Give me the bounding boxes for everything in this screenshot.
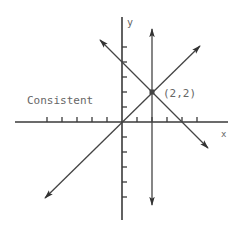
caption-label: Consistent [27,94,93,107]
y-axis-label: y [127,17,133,28]
x-axis-label: x [221,129,227,139]
intersection-point-marker [150,90,155,95]
intersection-label: (2,2) [163,87,196,100]
coordinate-graph: (2,2) Consistent x y [0,0,241,233]
